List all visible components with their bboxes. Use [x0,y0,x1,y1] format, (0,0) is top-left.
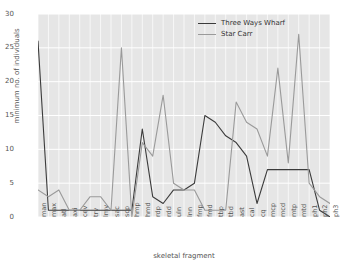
x-axis-tick: axi [72,207,79,217]
x-axis-tick: cev [82,206,89,217]
y-axis-tick: 5 [0,180,14,187]
x-axis-tick: fmd [207,204,214,217]
x-axis-tick: sac [114,206,121,217]
plot-area [38,14,330,217]
x-axis-tick: mcd [280,203,287,217]
x-axis-tick: lnn [187,207,194,217]
legend-label: Star Carr [221,29,252,39]
data-series-lines [38,14,330,217]
x-axis-tick: rdd [166,206,173,217]
x-axis-tick: hmp [134,202,141,217]
legend-label: Three Ways Wharf [221,18,285,28]
x-axis-tick: ph3 [333,205,340,217]
x-axis-tick: cal [249,208,256,217]
legend-line-swatch [198,23,216,24]
y-axis-tick: 25 [0,44,14,51]
chart-figure: 051015202530 minimum no. of individuals … [0,0,347,271]
x-axis-tick: hmd [145,202,152,217]
x-axis-label: skeletal fragment [38,252,330,260]
y-axis-tick: 10 [0,146,14,153]
y-axis-tick: 15 [0,112,14,119]
legend-item: Three Ways Wharf [198,18,324,29]
x-axis-tick: mcp [270,203,277,217]
x-axis-tick: cq [260,209,267,217]
legend-line-swatch [198,34,216,35]
x-axis-tick: ph1 [312,205,319,217]
y-axis-tick: 30 [0,11,14,18]
x-axis-tick: ph2 [322,205,329,217]
legend-item: Star Carr [198,29,324,40]
x-axis-tick: uln [176,207,183,217]
x-axis-tick: tbp [218,206,225,217]
chart-legend: Three Ways WharfStar Carr [198,18,324,40]
y-axis-tick: 0 [0,214,14,221]
x-axis-tick: rdp [155,206,162,217]
x-axis-tick: mtp [291,204,298,217]
x-axis-tick: mtd [301,204,308,217]
x-axis-tick: fmp [197,204,204,217]
x-axis-tick: man [41,203,48,217]
series-line [38,41,330,217]
x-axis-tick: tbd [228,206,235,217]
series-line [38,34,330,217]
y-axis-label: minimum no. of individuals [13,6,21,146]
y-axis-tick: 20 [0,78,14,85]
x-axis-tick: max [51,203,58,217]
x-axis-tick-labels: manmaxatlaxicevtrvlmvsacscphmphmdrdprddu… [38,217,330,249]
x-axis-tick: scp [124,206,131,217]
x-axis-tick: lmv [103,205,110,217]
x-axis-tick: trv [93,208,100,217]
x-axis-tick: atl [61,209,68,217]
x-axis-tick: ast [239,207,246,217]
